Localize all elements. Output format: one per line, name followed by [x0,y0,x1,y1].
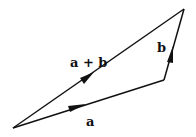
vector-b-line [164,9,184,80]
vector-diagram: a b a + b [0,0,196,137]
label-a: a [86,114,95,129]
vector-b-arrowhead [167,46,173,63]
vector-a-arrowhead [68,104,86,112]
vector-a-plus-b-arrowhead [80,72,94,84]
label-a-plus-b: a + b [70,55,107,70]
label-b: b [157,40,166,55]
diagram-svg: a b a + b [0,0,196,137]
